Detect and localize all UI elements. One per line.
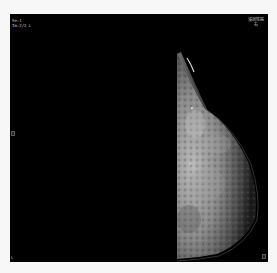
image-index-label: Im:2/2 L bbox=[12, 23, 31, 28]
breast-tissue-image bbox=[177, 14, 268, 262]
image-viewport[interactable]: Se:1 Im:2/2 L 浸润性癌 右 L bbox=[10, 14, 268, 262]
orientation-marker-bottom-left: L bbox=[11, 255, 13, 260]
viewer-window: Se:1 Im:2/2 L 浸润性癌 右 L bbox=[0, 0, 277, 273]
orientation-marker-left bbox=[11, 131, 15, 137]
orientation-left-icon bbox=[11, 131, 15, 136]
series-info: Se:1 Im:2/2 L bbox=[12, 18, 31, 28]
